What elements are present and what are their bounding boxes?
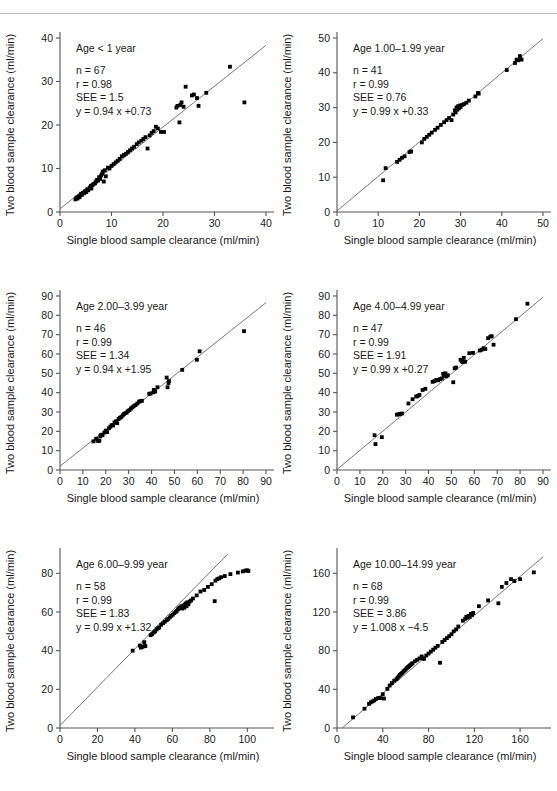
data-point (195, 358, 199, 362)
data-point (420, 141, 424, 145)
data-point (140, 399, 144, 403)
y-tick-label: 50 (318, 367, 330, 379)
x-axis-title: Single blood sample clearance (ml/min) (67, 750, 260, 762)
x-tick-label: 50 (169, 475, 181, 487)
y-axis-title: Two blood sample clearance (ml/min) (281, 292, 293, 474)
data-point (242, 100, 246, 104)
data-point (191, 597, 195, 601)
y-tick-label: 160 (312, 567, 330, 579)
data-point (438, 661, 442, 665)
data-point (422, 657, 426, 661)
data-point (471, 611, 475, 615)
data-point (381, 692, 385, 696)
x-axis-title: Single blood sample clearance (ml/min) (344, 234, 537, 246)
data-point (180, 100, 184, 104)
data-point (471, 351, 475, 355)
panel-stat-line: SEE = 1.34 (76, 349, 130, 361)
x-tick-label: 50 (537, 217, 549, 229)
y-tick-label: 80 (41, 567, 53, 579)
x-tick-label: 40 (129, 733, 141, 745)
data-point (456, 625, 460, 629)
data-point (379, 696, 383, 700)
figure-panel-grid: 010203040010203040Age < 1 yearn = 67r = … (0, 16, 557, 791)
panel-stat-line: r = 0.99 (353, 594, 389, 606)
data-point (144, 135, 148, 139)
panel-age-4-4.99: 01020304050607080900102030405060708090Ag… (277, 274, 557, 532)
data-point (165, 376, 169, 380)
data-point (182, 105, 186, 109)
data-point (407, 402, 411, 406)
data-point (184, 85, 188, 89)
x-axis-title: Single blood sample clearance (ml/min) (67, 492, 260, 504)
y-tick-label: 40 (41, 386, 53, 398)
x-tick-label: 30 (400, 475, 412, 487)
data-point (467, 99, 471, 103)
scatter-plot-0: 010203040010203040Age < 1 yearn = 67r = … (0, 16, 277, 274)
data-point (382, 697, 386, 701)
panel-title: Age 1.00–1.99 year (353, 42, 445, 54)
y-tick-label: 90 (318, 290, 330, 302)
y-tick-label: 0 (47, 722, 53, 734)
y-tick-label: 30 (318, 406, 330, 418)
y-tick-label: 50 (318, 32, 330, 44)
data-point (223, 574, 227, 578)
panel-stat-line: r = 0.99 (353, 336, 389, 348)
y-tick-label: 0 (324, 206, 330, 218)
data-point (219, 575, 223, 579)
data-point (436, 644, 440, 648)
data-point (374, 442, 378, 446)
y-tick-label: 10 (318, 444, 330, 456)
panel-stat-line: r = 0.99 (76, 594, 112, 606)
y-tick-label: 80 (318, 309, 330, 321)
panel-title: Age 10.00–14.99 year (353, 558, 457, 570)
data-point (532, 570, 536, 574)
data-point (197, 104, 201, 108)
data-point (381, 178, 385, 182)
y-tick-label: 90 (41, 290, 53, 302)
data-point (229, 572, 233, 576)
panel-stat-line: r = 0.98 (76, 78, 112, 90)
panel-stat-line: y = 1.008 x −4.5 (353, 621, 428, 633)
panel-stat-line: SEE = 1.5 (76, 91, 124, 103)
data-point (90, 187, 94, 191)
panel-stat-line: r = 0.99 (353, 78, 389, 90)
data-point (477, 604, 481, 608)
y-axis-title: Two blood sample clearance (ml/min) (281, 550, 293, 732)
data-point (492, 343, 496, 347)
y-tick-label: 0 (324, 464, 330, 476)
panel-age-2-3.99: 01020304050607080900102030405060708090Ag… (0, 274, 277, 532)
data-point (504, 581, 508, 585)
data-point (514, 317, 518, 321)
panel-stat-line: y = 0.99 x +0.27 (353, 363, 428, 375)
data-point (373, 433, 377, 437)
data-points (381, 54, 523, 182)
data-point (166, 385, 170, 389)
data-point (146, 147, 150, 151)
x-tick-label: 60 (191, 475, 203, 487)
x-tick-label: 10 (372, 217, 384, 229)
y-tick-label: 40 (318, 683, 330, 695)
data-point (451, 380, 455, 384)
y-tick-label: 80 (318, 644, 330, 656)
y-tick-label: 20 (41, 119, 53, 131)
y-tick-label: 0 (47, 464, 53, 476)
y-tick-label: 10 (41, 162, 53, 174)
x-axis-title: Single blood sample clearance (ml/min) (344, 492, 537, 504)
data-point (450, 118, 454, 122)
data-point (462, 356, 466, 360)
data-point (526, 302, 530, 306)
data-points (131, 568, 251, 652)
data-point (430, 131, 434, 135)
y-axis-title: Two blood sample clearance (ml/min) (4, 34, 16, 216)
y-tick-label: 60 (41, 606, 53, 618)
header-rule (0, 13, 557, 14)
y-tick-label: 30 (41, 75, 53, 87)
data-point (467, 351, 471, 355)
panel-title: Age 4.00–4.99 year (353, 300, 445, 312)
x-tick-label: 80 (423, 733, 435, 745)
panel-age-under-1: 010203040010203040Age < 1 yearn = 67r = … (0, 16, 277, 274)
data-point (463, 360, 467, 364)
x-tick-label: 0 (334, 217, 340, 229)
x-tick-label: 60 (468, 475, 480, 487)
scatter-plot-1: 0102030405001020304050Age 1.00–1.99 year… (277, 16, 554, 274)
